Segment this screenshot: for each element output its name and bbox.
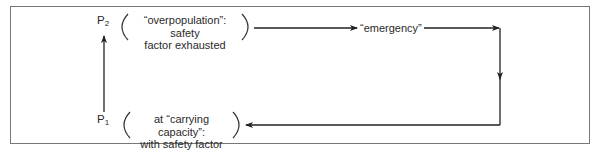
p2-description-line1: “overpopulation”: safety <box>128 14 242 39</box>
p2-subscript: 2 <box>105 19 109 28</box>
p2-description-line2: factor exhausted <box>128 39 242 52</box>
p2-right-paren <box>242 14 248 40</box>
p2-symbol: P <box>97 14 105 26</box>
state-p1-label: P1 <box>97 113 109 127</box>
state-p2-label: P2 <box>97 14 109 28</box>
emergency-label: “emergency” <box>360 22 422 34</box>
p1-symbol: P <box>97 113 105 125</box>
p1-subscript: 1 <box>105 118 109 127</box>
state-p1-description: at “carrying capacity”: with safety fact… <box>130 113 233 151</box>
p1-description-line1: at “carrying capacity”: <box>130 113 233 138</box>
state-p2-description: “overpopulation”: safety factor exhauste… <box>128 14 242 52</box>
connector-arrows <box>0 0 603 155</box>
p1-description-line2: with safety factor <box>130 138 233 151</box>
p1-right-paren <box>233 112 239 138</box>
